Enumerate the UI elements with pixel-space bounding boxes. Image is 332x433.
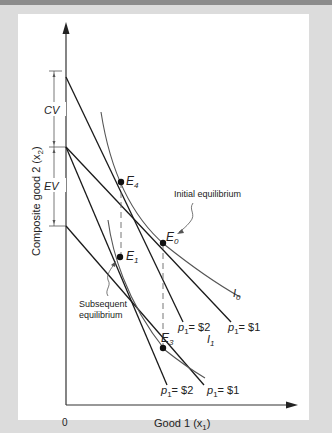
ev-label: EV bbox=[44, 180, 60, 192]
initial-arrowhead-icon bbox=[177, 229, 184, 234]
price-label-lower-p1: p1= $1 bbox=[206, 384, 239, 399]
x-axis-arrow-icon bbox=[286, 402, 298, 409]
x-axis-label: Good 1 (x1) bbox=[154, 417, 210, 432]
price-label-upper-p2: p1= $2 bbox=[177, 321, 210, 336]
i0-label: I0 bbox=[233, 287, 241, 302]
cv-ev-diagram: CV EV E4 E0 E1 E3 I0 I1 Initial equilibr… bbox=[0, 0, 332, 433]
origin-label: 0 bbox=[62, 417, 68, 428]
subsequent-note-line1: Subsequent bbox=[79, 299, 128, 309]
y-axis bbox=[63, 22, 70, 405]
e1-label: E1 bbox=[126, 249, 138, 265]
price-label-lower-p2: p1= $2 bbox=[160, 384, 193, 399]
i1-label: I1 bbox=[207, 333, 215, 348]
y-axis-label: Composite good 2 (x2) bbox=[30, 146, 45, 256]
x-axis bbox=[66, 402, 298, 409]
subsequent-note-line2: equilibrium bbox=[79, 310, 123, 320]
cv-label: CV bbox=[44, 104, 61, 116]
price-label-upper-p1: p1= $1 bbox=[227, 321, 260, 336]
initial-arrow-icon bbox=[179, 203, 193, 232]
point-e3 bbox=[160, 345, 166, 351]
point-e1 bbox=[117, 254, 123, 260]
cv-ev-brackets bbox=[49, 71, 66, 226]
subsequent-arrowhead-icon bbox=[111, 261, 116, 267]
point-e4 bbox=[118, 179, 124, 185]
initial-equilibrium-note: Initial equilibrium bbox=[174, 189, 241, 199]
indifference-curve-i0 bbox=[101, 112, 240, 297]
budget-line-initial-p1 bbox=[66, 147, 231, 322]
e0-label: E0 bbox=[166, 230, 179, 246]
e3-label: E3 bbox=[161, 331, 174, 347]
e4-label: E4 bbox=[126, 174, 139, 190]
dashed-guides bbox=[121, 182, 163, 348]
y-axis-arrow-icon bbox=[63, 22, 70, 34]
